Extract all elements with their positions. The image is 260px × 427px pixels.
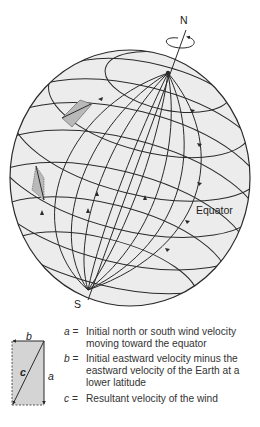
vector-c-label: c [20, 366, 26, 378]
globe-diagram [0, 0, 260, 320]
earth-sphere [10, 50, 250, 306]
legend-c: c =Resultant velocity of the wind [64, 393, 260, 405]
legend-a: a =Initial north or south wind velocity … [64, 326, 260, 350]
vector-a-label: a [48, 370, 54, 382]
north-pole-dot [166, 71, 170, 75]
legend-b: b =Initial eastward velocity minus the e… [64, 353, 260, 389]
equator-label: Equator [196, 204, 233, 216]
south-label: S [74, 298, 81, 310]
vector-b-label: b [26, 330, 32, 342]
north-label: N [180, 14, 188, 26]
